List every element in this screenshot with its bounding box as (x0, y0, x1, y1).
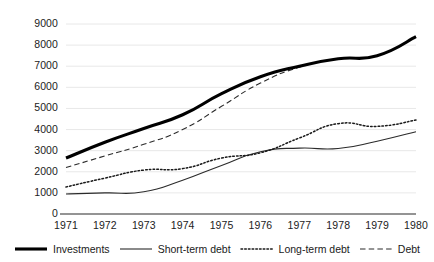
solid-thick-swatch (14, 244, 48, 254)
y-tick-label: 4000 (14, 123, 58, 135)
x-tick-label: 1974 (161, 219, 205, 231)
y-tick-label: 7000 (14, 59, 58, 71)
legend-label: Investments (53, 243, 110, 255)
y-tick-label: 0 (14, 207, 58, 219)
x-tick-label: 1980 (394, 219, 434, 231)
chart-legend: InvestmentsShort-term debtLong-term debt… (0, 240, 434, 258)
y-tick-label: 8000 (14, 38, 58, 50)
gridlines (66, 24, 416, 214)
legend-item-debt[interactable]: Debt (359, 243, 420, 255)
solid-thin-swatch (119, 244, 153, 254)
legend-label: Long-term debt (279, 243, 350, 255)
x-tick-label: 1978 (316, 219, 360, 231)
y-tick-label: 9000 (14, 17, 58, 29)
x-tick-label: 1975 (200, 219, 244, 231)
x-tick-label: 1976 (238, 219, 282, 231)
x-tick-label: 1972 (83, 219, 127, 231)
y-tick-label: 6000 (14, 80, 58, 92)
dashed-swatch (359, 244, 393, 254)
y-tick-label: 2000 (14, 165, 58, 177)
legend-label: Debt (398, 243, 420, 255)
dotted-swatch (240, 244, 274, 254)
y-tick-label: 1000 (14, 186, 58, 198)
legend-item-investments[interactable]: Investments (14, 243, 110, 255)
series-lines (66, 37, 416, 194)
x-tick-label: 1979 (355, 219, 399, 231)
line-chart: 0100020003000400050006000700080009000 19… (0, 0, 434, 262)
legend-label: Short-term debt (158, 243, 231, 255)
legend-item-short-term-debt[interactable]: Short-term debt (119, 243, 231, 255)
series-line-short-term-debt (66, 132, 416, 194)
x-tick-label: 1973 (122, 219, 166, 231)
series-line-debt (66, 37, 416, 168)
x-tick-label: 1977 (277, 219, 321, 231)
series-line-long-term-debt (66, 120, 416, 187)
y-tick-label: 5000 (14, 101, 58, 113)
series-line-investments (66, 37, 416, 158)
legend-item-long-term-debt[interactable]: Long-term debt (240, 243, 350, 255)
x-tick-label: 1971 (44, 219, 88, 231)
y-tick-label: 3000 (14, 144, 58, 156)
